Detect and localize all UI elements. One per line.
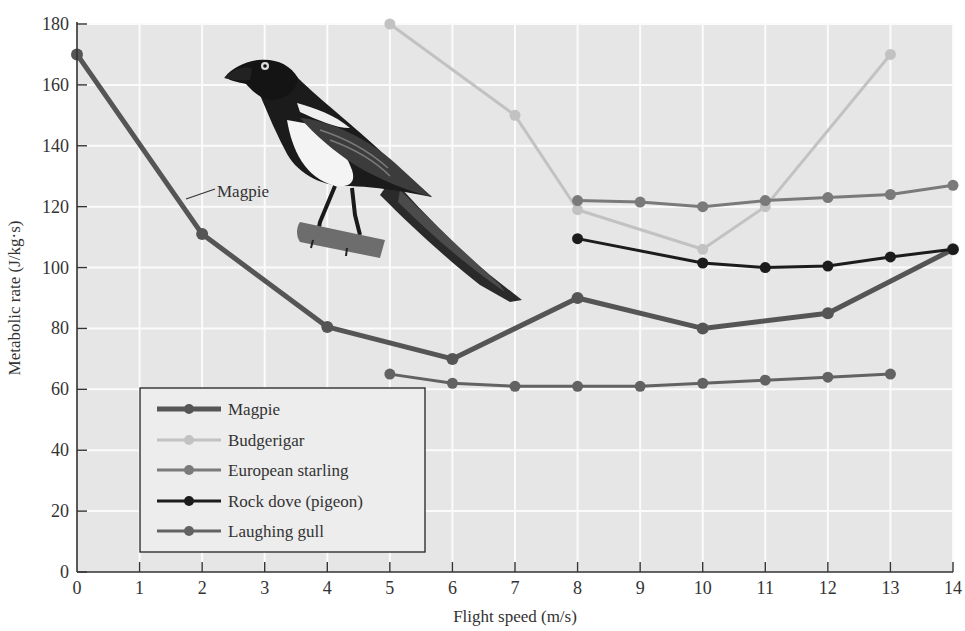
data-point-marker <box>948 180 959 191</box>
x-tick-label: 12 <box>819 578 837 598</box>
magpie-annotation-label: Magpie <box>217 182 269 201</box>
data-point-marker <box>635 197 646 208</box>
data-point-marker <box>572 292 584 304</box>
legend-swatch-marker <box>184 526 194 536</box>
data-point-marker <box>760 375 771 386</box>
data-point-marker <box>948 244 959 255</box>
data-point-marker <box>885 189 896 200</box>
metabolic-rate-chart: 0204060801001201401601800123456789101112… <box>0 0 965 631</box>
x-tick-label: 6 <box>448 578 457 598</box>
legend-label: European starling <box>228 461 349 480</box>
y-axis-title: Metabolic rate (J/kg·s) <box>5 221 24 376</box>
legend-label: Magpie <box>228 400 280 419</box>
legend: Magpie Budgerigar European starling Rock… <box>140 388 425 552</box>
legend-swatch-marker <box>184 435 194 445</box>
legend-label: Rock dove (pigeon) <box>228 492 363 511</box>
y-tick-label: 120 <box>42 197 69 217</box>
data-point-marker <box>572 381 583 392</box>
y-tick-label: 80 <box>51 318 69 338</box>
data-point-marker <box>321 321 333 333</box>
data-point-marker <box>196 228 208 240</box>
data-point-marker <box>447 378 458 389</box>
x-tick-label: 11 <box>757 578 774 598</box>
data-point-marker <box>635 381 646 392</box>
x-tick-label: 1 <box>135 578 144 598</box>
data-point-marker <box>697 322 709 334</box>
x-tick-label: 13 <box>881 578 899 598</box>
x-tick-label: 10 <box>694 578 712 598</box>
data-point-marker <box>822 192 833 203</box>
data-point-marker <box>760 262 771 273</box>
data-point-marker <box>885 369 896 380</box>
legend-swatch-marker <box>184 465 194 475</box>
legend-swatch-marker <box>184 404 194 414</box>
data-point-marker <box>822 372 833 383</box>
x-tick-label: 2 <box>198 578 207 598</box>
x-tick-label: 7 <box>511 578 520 598</box>
data-point-marker <box>384 369 395 380</box>
data-point-marker <box>384 19 395 30</box>
data-point-marker <box>697 378 708 389</box>
data-point-marker <box>697 257 708 268</box>
y-tick-label: 100 <box>42 258 69 278</box>
data-point-marker <box>697 201 708 212</box>
y-tick-label: 160 <box>42 75 69 95</box>
y-tick-label: 20 <box>51 501 69 521</box>
data-point-marker <box>760 195 771 206</box>
y-tick-label: 0 <box>60 562 69 582</box>
x-tick-label: 14 <box>944 578 962 598</box>
x-tick-label: 8 <box>573 578 582 598</box>
data-point-marker <box>822 261 833 272</box>
data-point-marker <box>510 110 521 121</box>
x-tick-label: 5 <box>385 578 394 598</box>
data-point-marker <box>446 353 458 365</box>
legend-swatch-marker <box>184 496 194 506</box>
data-point-marker <box>885 251 896 262</box>
data-point-marker <box>510 381 521 392</box>
y-tick-label: 60 <box>51 379 69 399</box>
data-point-marker <box>697 244 708 255</box>
y-tick-label: 180 <box>42 14 69 34</box>
x-tick-label: 3 <box>260 578 269 598</box>
x-tick-label: 4 <box>323 578 332 598</box>
x-axis-title: Flight speed (m/s) <box>453 607 577 626</box>
legend-label: Budgerigar <box>228 431 305 450</box>
legend-label: Laughing gull <box>228 522 324 541</box>
x-tick-label: 0 <box>73 578 82 598</box>
data-point-marker <box>572 195 583 206</box>
x-tick-label: 9 <box>636 578 645 598</box>
data-point-marker <box>885 49 896 60</box>
magpie-pupil <box>263 64 267 68</box>
y-tick-label: 140 <box>42 136 69 156</box>
y-tick-label: 40 <box>51 440 69 460</box>
data-point-marker <box>572 233 583 244</box>
data-point-marker <box>822 307 834 319</box>
